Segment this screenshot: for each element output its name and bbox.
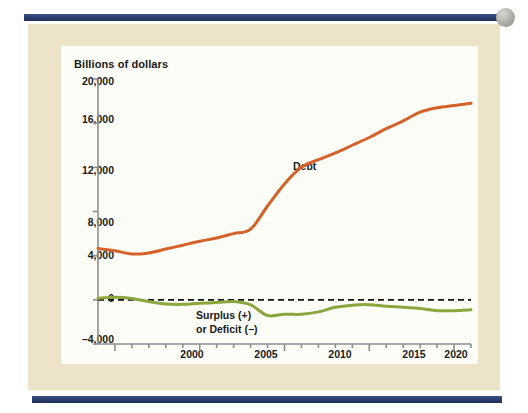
top-rule-bar: [24, 14, 506, 21]
bottom-rule-bar: [32, 396, 502, 403]
figure-root: Billions of dollars 20,000 16,000 12,000…: [0, 0, 528, 413]
x-axis-ticks: [115, 344, 471, 351]
chart-plot-svg: [61, 46, 478, 364]
rule-end-dot: [496, 8, 515, 27]
series-line-debt: [98, 103, 471, 254]
axis-lines: [98, 79, 471, 344]
